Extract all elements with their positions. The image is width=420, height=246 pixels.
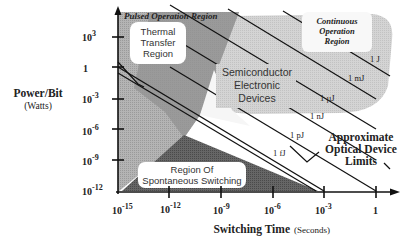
y-axis-unit: (Watts) — [24, 101, 52, 112]
energy-label-1mj: 1 mJ — [348, 73, 365, 83]
energy-label-1pj: 1 pJ — [290, 130, 305, 140]
x-axis-unit: (Seconds) — [294, 225, 330, 235]
continuous-label-line1: Continuous — [316, 16, 358, 26]
optical-device-limits-diagram: 103 1 10-3 10-6 10-9 10-12 10-15 10-12 1… — [0, 0, 420, 246]
y-axis-arrow-icon — [115, 6, 122, 15]
continuous-label-line2: Operation — [319, 26, 355, 36]
energy-label-1j: 1 J — [370, 54, 380, 64]
energy-label-1fj: 1 fJ — [273, 148, 286, 158]
spontaneous-label-line2: Spontaneous Switching — [142, 175, 241, 186]
svg-text:10-9: 10-9 — [213, 202, 230, 216]
optical-label-line3: Limits — [345, 155, 377, 167]
spontaneous-label-line1: Region Of — [171, 164, 214, 175]
svg-text:10-6: 10-6 — [82, 123, 99, 137]
semiconductor-label-line1: Semiconductor — [222, 66, 293, 78]
energy-label-1nj: 1 nJ — [310, 111, 325, 121]
semiconductor-label-line3: Devices — [238, 92, 275, 104]
x-tick-labels: 10-15 10-12 10-9 10-6 10-3 1 — [112, 201, 378, 216]
pulsed-region-label: Pulsed Operation Region — [124, 11, 218, 21]
continuous-label-line3: Region — [323, 36, 349, 46]
thermal-label-line2: Transfer — [140, 37, 175, 48]
svg-text:10-3: 10-3 — [82, 91, 99, 105]
y-axis-title: Power/Bit — [13, 87, 62, 99]
svg-text:10-12: 10-12 — [82, 183, 103, 197]
energy-label-1uj: 1 µJ — [320, 93, 335, 103]
svg-text:10-3: 10-3 — [315, 202, 332, 216]
optical-label-pointer — [384, 163, 390, 169]
svg-text:10-15: 10-15 — [112, 202, 133, 216]
x-axis-title: Switching Time — [213, 223, 290, 236]
svg-text:10-12: 10-12 — [160, 201, 181, 215]
y-tick-labels: 103 1 10-3 10-6 10-9 10-12 — [82, 29, 103, 197]
thermal-label-line1: Thermal — [141, 26, 176, 37]
svg-text:10-9: 10-9 — [82, 153, 99, 167]
svg-text:103: 103 — [82, 29, 96, 43]
x-axis-arrow-icon — [390, 189, 400, 196]
svg-text:10-6: 10-6 — [264, 202, 281, 216]
thermal-label-line3: Region — [143, 48, 173, 59]
svg-text:1: 1 — [373, 205, 378, 216]
semiconductor-label-line2: Electronic — [234, 79, 280, 91]
svg-text:1: 1 — [83, 63, 88, 74]
